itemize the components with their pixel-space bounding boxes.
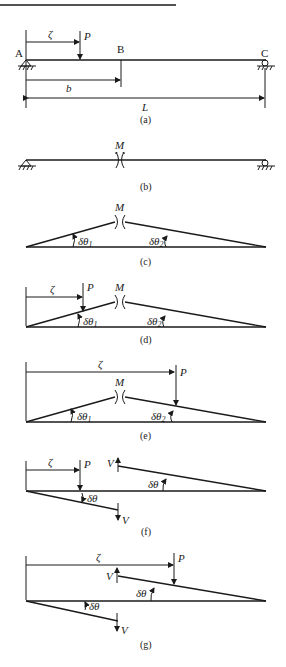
roller-support-icon xyxy=(257,160,275,170)
label-zeta: ζ xyxy=(50,283,56,296)
label-dtheta-top: δθ xyxy=(148,478,159,490)
label-zeta: ζ xyxy=(48,28,54,41)
label-dtheta2: δθ2 xyxy=(149,235,164,249)
label-P: P xyxy=(179,366,187,378)
label-dtheta2: δθ2 xyxy=(147,315,162,329)
caption-f: (f) xyxy=(141,526,151,538)
moment-pair-icon xyxy=(115,390,125,404)
caption-e: (e) xyxy=(140,430,151,442)
label-M: M xyxy=(114,139,125,151)
caption-c: (c) xyxy=(140,256,151,268)
left-rotated-segment xyxy=(26,302,115,327)
label-dtheta1: δθ1 xyxy=(78,235,93,249)
label-P: P xyxy=(86,281,94,293)
left-rotated-segment xyxy=(26,222,115,247)
left-rotated-segment xyxy=(26,397,115,422)
panel-d: M ζ P δθ1 δθ2 (d) xyxy=(26,281,266,346)
angle-arrow-icon xyxy=(163,316,165,327)
caption-b: (b) xyxy=(140,181,152,193)
moment-pair-icon xyxy=(115,295,125,309)
roller-support-icon xyxy=(257,60,275,70)
label-zeta: ζ xyxy=(98,358,104,371)
label-V-bottom: V xyxy=(121,624,129,636)
label-A: A xyxy=(15,47,23,59)
beam-influence-diagram: A B C P ζ b L (a) xyxy=(0,0,286,667)
label-M: M xyxy=(114,376,125,388)
label-B: B xyxy=(117,43,124,55)
angle-arrow-icon xyxy=(85,602,86,610)
angle-arrow-icon xyxy=(73,234,75,247)
angle-arrow-icon xyxy=(163,479,166,491)
caption-d: (d) xyxy=(140,334,152,346)
label-dtheta-bottom: δθ xyxy=(87,492,98,504)
left-rotated-segment xyxy=(26,491,118,510)
label-P: P xyxy=(177,552,185,564)
label-dtheta1: δθ1 xyxy=(77,410,92,424)
left-rotated-segment xyxy=(26,601,118,621)
panel-f: ζ P V V δθ δθ (f) xyxy=(26,456,266,538)
label-dtheta-top: δθ xyxy=(136,587,147,599)
angle-arrow-icon xyxy=(71,409,73,422)
label-M: M xyxy=(114,281,125,293)
caption-g: (g) xyxy=(140,639,152,651)
label-dtheta-bottom: δθ xyxy=(89,600,100,612)
panel-c: M δθ1 δθ2 (c) xyxy=(26,201,266,268)
label-P: P xyxy=(83,30,91,42)
panel-b: M (b) xyxy=(18,139,275,193)
label-V-top: V xyxy=(107,457,115,469)
panel-e: M ζ P δθ1 δθ2 (e) xyxy=(26,358,266,442)
label-b: b xyxy=(66,82,72,94)
panel-g: ζ P V V δθ δθ (g) xyxy=(26,551,266,651)
angle-arrow-icon xyxy=(171,411,173,422)
panel-a: A B C P ζ b L (a) xyxy=(15,28,275,126)
label-V-bottom: V xyxy=(122,514,130,526)
right-rotated-segment xyxy=(118,466,266,491)
label-zeta: ζ xyxy=(48,456,54,469)
label-L: L xyxy=(141,101,148,113)
label-zeta: ζ xyxy=(96,551,102,564)
caption-a: (a) xyxy=(140,114,151,126)
label-M: M xyxy=(114,201,125,213)
moment-pair-icon xyxy=(115,215,125,229)
angle-arrow-icon xyxy=(165,236,167,247)
label-C: C xyxy=(261,47,268,59)
label-dtheta2: δθ2 xyxy=(151,410,166,424)
angle-arrow-icon xyxy=(82,493,83,502)
pin-support-icon xyxy=(18,60,36,70)
pin-support-icon xyxy=(18,160,36,170)
angle-arrow-icon xyxy=(78,314,80,327)
angle-arrow-icon xyxy=(151,588,154,601)
label-P: P xyxy=(83,458,91,470)
label-V-top: V xyxy=(106,570,114,582)
right-rotated-segment xyxy=(125,222,266,247)
label-dtheta1: δθ1 xyxy=(83,315,98,329)
right-rotated-segment xyxy=(125,397,266,422)
